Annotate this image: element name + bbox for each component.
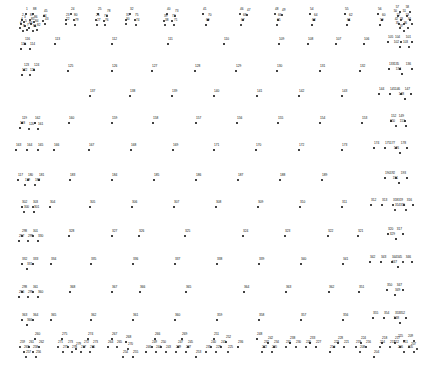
point-marker-icon [399,152,401,154]
point-label: 301 [34,206,39,210]
point-marker-icon [216,319,218,321]
point-label: 65 [277,19,280,23]
point-marker-icon [370,204,372,206]
point-marker-icon [411,41,413,43]
point-marker-icon [355,346,357,348]
point-label: 348 [394,317,399,321]
point-marker-icon [395,238,397,240]
point-label: 210 [330,346,335,350]
point-label: 164 [27,144,32,148]
point-label: 340 [301,258,306,262]
point-marker-icon [389,93,391,95]
point-label: 334 [51,258,56,262]
point-marker-icon [392,204,394,206]
point-marker-icon [132,356,134,358]
point-marker-icon [346,24,348,26]
point-marker-icon [54,43,56,45]
point-marker-icon [152,122,154,124]
point-label: 362 [91,314,96,318]
point-label: 311 [342,201,347,205]
point-marker-icon [327,235,329,237]
point-marker-icon [194,70,196,72]
point-label: 59 [380,19,383,23]
point-marker-icon [213,149,215,151]
point-marker-icon [32,319,34,321]
point-label: 299 [28,235,33,239]
point-label: 131 [320,65,325,69]
point-label: 304 [50,201,55,205]
point-label: 243 [166,346,171,350]
point-marker-icon [131,206,133,208]
point-marker-icon [36,29,38,31]
point-label: 102 [394,41,399,45]
point-label: 176 [394,147,399,151]
point-marker-icon [20,48,22,50]
point-marker-icon [258,319,260,321]
point-label: 300 [24,206,29,210]
point-label: 227 [316,341,321,345]
point-label: 364 [244,286,249,290]
point-label: 22 [66,18,69,22]
point-label: 321 [358,230,363,234]
point-marker-icon [21,74,23,76]
point-marker-icon [342,319,344,321]
point-marker-icon [305,346,307,348]
point-label: 61 [347,19,350,23]
point-marker-icon [278,43,280,45]
point-marker-icon [344,13,346,15]
point-marker-icon [408,46,410,48]
point-label: 166 [54,144,59,148]
point-label: 357 [301,314,306,318]
point-marker-icon [387,41,389,43]
point-label: 265 [117,341,122,345]
point-label: 150 [390,120,395,124]
point-marker-icon [406,177,408,179]
point-label: 260 [35,333,40,337]
point-label: 33 [400,18,403,22]
point-label: 262 [39,341,44,345]
point-marker-icon [388,68,390,70]
point-marker-icon [135,24,137,26]
point-marker-icon [89,95,91,97]
point-label: 168 [131,144,136,148]
point-label: 36 [404,22,407,26]
point-marker-icon [399,46,401,48]
point-marker-icon [71,351,73,353]
point-label: 183 [70,174,75,178]
point-marker-icon [69,291,71,293]
point-marker-icon [68,235,70,237]
point-marker-icon [223,43,225,45]
point-label: 354 [384,312,389,316]
point-marker-icon [33,211,35,213]
point-marker-icon [151,70,153,72]
point-label: 275 [62,333,67,337]
point-marker-icon [27,240,29,242]
point-marker-icon [37,240,39,242]
point-marker-icon [411,261,413,263]
point-label: 67 [241,19,244,23]
point-marker-icon [34,338,36,340]
point-label: 306 [132,201,137,205]
point-label: 206 [398,346,403,350]
point-marker-icon [235,70,237,72]
point-marker-icon [37,128,39,130]
point-marker-icon [132,263,134,265]
point-label: 367 [112,286,117,290]
point-marker-icon [125,23,127,25]
point-label: 359 [217,314,222,318]
point-label: 37 [400,25,403,29]
point-marker-icon [236,122,238,124]
point-marker-icon [401,73,403,75]
point-marker-icon [165,351,167,353]
point-label: 74 [136,19,139,23]
point-label: 193 [401,172,406,176]
point-label: 339 [259,258,264,262]
point-label: 307 [174,201,179,205]
point-label: 368 [70,286,75,290]
point-label: 337 [175,258,180,262]
point-marker-icon [195,122,197,124]
point-marker-icon [403,351,405,353]
point-label: 43 [45,18,48,22]
point-label: 125 [68,65,73,69]
point-marker-icon [321,179,323,181]
